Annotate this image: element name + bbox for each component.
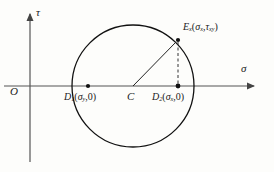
mohr-circle-figure: τ σ O C D1(σy,0) D2(σx,0) Ex(σx,τxy): [0, 0, 274, 172]
point-d2-label: D2(σx,0): [152, 92, 184, 103]
mohr-circle-canvas: [0, 0, 274, 172]
point-d1-dot: [86, 84, 90, 88]
point-d1-label: D1(σy,0): [64, 92, 96, 103]
circle-center-label: C: [127, 91, 134, 102]
point-e-dot: [176, 38, 180, 42]
sigma-axis-label: σ: [241, 63, 246, 74]
origin-label: O: [10, 86, 18, 97]
point-d2-dot: [176, 84, 181, 89]
e-close-paren: ): [214, 21, 217, 32]
radius-line: [133, 42, 176, 86]
d1-close-paren: ): [93, 91, 96, 102]
point-e-label: Ex(σx,τxy): [183, 22, 218, 33]
tau-axis-label: τ: [36, 7, 40, 18]
d2-close-paren: ): [181, 91, 184, 102]
